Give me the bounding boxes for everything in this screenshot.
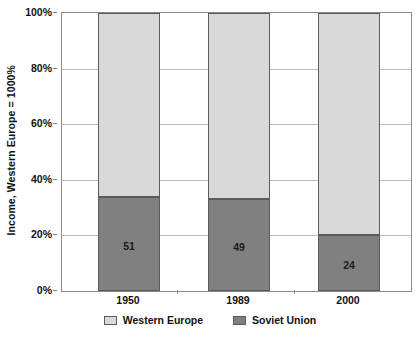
legend-item-western-europe[interactable]: Western Europe bbox=[104, 314, 203, 326]
y-axis-tick-labels: 100% 80% 60% 40% 20% 0% bbox=[20, 0, 57, 300]
bar-segment-soviet-union[interactable]: 24 bbox=[318, 235, 380, 291]
x-tick-mark bbox=[177, 290, 178, 294]
bar-segment-soviet-union[interactable]: 51 bbox=[98, 197, 160, 292]
y-tick-label: 100% bbox=[25, 6, 52, 18]
bar-group-2000[interactable]: 24 bbox=[318, 13, 380, 291]
y-axis-title: Income, Western Europe = 1000% bbox=[0, 0, 22, 300]
x-axis-tick-labels: 1950 1989 2000 bbox=[61, 292, 412, 312]
x-tick-label-1950: 1950 bbox=[116, 294, 139, 306]
y-tick-mark bbox=[53, 234, 57, 235]
y-axis-title-text: Income, Western Europe = 1000% bbox=[5, 65, 17, 236]
y-tick-label: 40% bbox=[31, 173, 52, 185]
y-tick-label: 0% bbox=[37, 284, 52, 296]
bar-group-1950[interactable]: 51 bbox=[98, 13, 160, 291]
y-tick-mark bbox=[53, 290, 57, 291]
legend-label: Soviet Union bbox=[252, 314, 316, 326]
y-tick-label: 80% bbox=[31, 62, 52, 74]
y-tick-label: 60% bbox=[31, 117, 52, 129]
chart-legend: Western Europe Soviet Union bbox=[0, 314, 420, 326]
y-tick-mark bbox=[53, 123, 57, 124]
y-tick-mark bbox=[53, 12, 57, 13]
bar-segment-western-europe[interactable] bbox=[98, 13, 160, 197]
stacked-bar-chart: Income, Western Europe = 1000% 100% 80% … bbox=[0, 0, 420, 337]
y-tick-mark bbox=[53, 179, 57, 180]
x-tick-label-2000: 2000 bbox=[336, 294, 359, 306]
bar-value-label: 24 bbox=[343, 259, 355, 271]
legend-label: Western Europe bbox=[123, 314, 203, 326]
bar-segment-western-europe[interactable] bbox=[208, 13, 270, 199]
bar-segment-western-europe[interactable] bbox=[318, 13, 380, 235]
legend-item-soviet-union[interactable]: Soviet Union bbox=[233, 314, 316, 326]
bar-value-label: 49 bbox=[233, 241, 245, 253]
y-tick-label: 20% bbox=[31, 228, 52, 240]
legend-swatch-icon bbox=[104, 316, 117, 325]
bar-group-1989[interactable]: 49 bbox=[208, 13, 270, 291]
legend-swatch-icon bbox=[233, 316, 246, 325]
y-tick-mark bbox=[53, 68, 57, 69]
bar-value-label: 51 bbox=[123, 240, 135, 252]
x-tick-label-1989: 1989 bbox=[226, 294, 249, 306]
plot-area: 51 49 24 bbox=[61, 12, 412, 292]
x-tick-mark bbox=[294, 290, 295, 294]
bar-segment-soviet-union[interactable]: 49 bbox=[208, 199, 270, 291]
